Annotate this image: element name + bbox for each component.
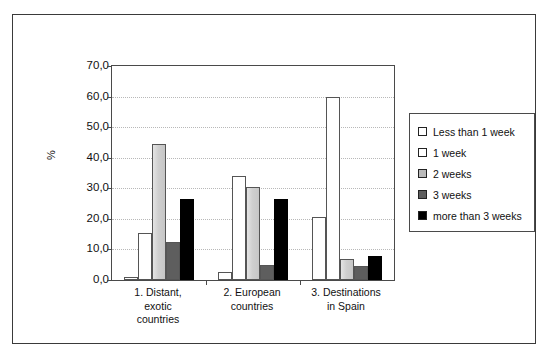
x-category-label-line: exotic <box>111 300 205 314</box>
legend-item: 1 week <box>418 142 534 163</box>
bar <box>326 97 340 280</box>
y-tick-label: 70,0 <box>87 59 109 71</box>
legend-item: Less than 1 week <box>418 121 534 142</box>
y-tick-label: 30,0 <box>87 181 109 193</box>
x-category-label-line: countries <box>111 313 205 327</box>
x-axis-tick <box>300 280 301 285</box>
bar <box>124 277 138 280</box>
legend-swatch <box>418 169 427 178</box>
chart-legend: Less than 1 week1 week2 weeks3 weeksmore… <box>409 113 535 232</box>
bar <box>260 265 274 280</box>
bar <box>354 266 368 280</box>
bar <box>312 217 326 280</box>
y-tick-label: 60,0 <box>87 90 109 102</box>
bar <box>246 187 260 280</box>
bar <box>166 242 180 280</box>
x-category-label-line: 1. Distant, <box>111 286 205 300</box>
bar <box>368 256 382 280</box>
y-axis-tick-labels: 70,060,050,040,030,020,010,00,0 <box>67 59 109 285</box>
plot-area <box>111 65 395 281</box>
chart-figure: % 70,060,050,040,030,020,010,00,0 1. Dis… <box>12 14 536 344</box>
bar <box>152 144 166 280</box>
legend-item: 2 weeks <box>418 163 534 184</box>
y-tick-label: 10,0 <box>87 242 109 254</box>
legend-label: 2 weeks <box>433 168 472 180</box>
legend-swatch <box>418 127 427 136</box>
bar <box>274 199 288 280</box>
x-category-label-line: 3. Destinations <box>299 286 393 300</box>
bar-series-container <box>112 66 394 280</box>
legend-label: 1 week <box>433 147 466 159</box>
x-category-label-line: countries <box>205 300 299 314</box>
bar <box>218 272 232 280</box>
bar <box>340 259 354 280</box>
legend-swatch <box>418 148 427 157</box>
legend-label: Less than 1 week <box>433 126 515 138</box>
y-tick-label: 0,0 <box>93 273 109 285</box>
legend-label: more than 3 weeks <box>433 210 522 222</box>
x-category-label: 3. Destinationsin Spain <box>299 286 393 313</box>
bar <box>138 233 152 280</box>
y-tick-label: 40,0 <box>87 151 109 163</box>
x-axis-category-labels: 1. Distant,exoticcountries2. Europeancou… <box>111 286 393 342</box>
bar <box>180 199 194 280</box>
y-tick-label: 20,0 <box>87 212 109 224</box>
y-axis-tick <box>107 280 112 281</box>
legend-swatch <box>418 190 427 199</box>
x-axis-tick <box>206 280 207 285</box>
x-category-label: 2. Europeancountries <box>205 286 299 313</box>
bar <box>232 176 246 280</box>
legend-swatch <box>418 211 427 220</box>
y-axis-label: % <box>45 135 57 175</box>
x-category-label-line: in Spain <box>299 300 393 314</box>
y-tick-label: 50,0 <box>87 120 109 132</box>
legend-label: 3 weeks <box>433 189 472 201</box>
x-category-label-line: 2. European <box>205 286 299 300</box>
legend-item: 3 weeks <box>418 184 534 205</box>
legend-item: more than 3 weeks <box>418 205 534 226</box>
x-category-label: 1. Distant,exoticcountries <box>111 286 205 327</box>
